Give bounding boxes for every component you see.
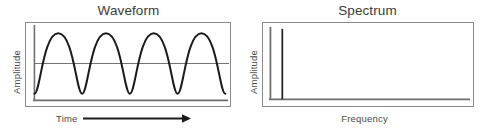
- waveform-title: Waveform: [0, 2, 243, 19]
- time-arrow-icon: [83, 113, 191, 124]
- waveform-plot-svg: [26, 23, 230, 106]
- panel-spectrum: Spectrum Amplitude Frequency: [243, 0, 486, 138]
- waveform-x-axis-label: Time: [56, 113, 78, 124]
- spectrum-plot-area: [262, 22, 474, 107]
- spectrum-x-axis-label: Frequency: [341, 113, 388, 124]
- panel-waveform: Waveform Amplitude Time: [0, 0, 243, 138]
- spectrum-plot-svg: [263, 23, 473, 106]
- waveform-plot-area: [25, 22, 231, 107]
- spectrum-title: Spectrum: [243, 2, 486, 19]
- spectrum-y-axis-label: Amplitude: [249, 50, 259, 94]
- figure-root: Waveform Amplitude Time Spectrum: [0, 0, 486, 138]
- spectrum-x-axis-label-row: Frequency: [243, 113, 486, 124]
- waveform-y-axis-label: Amplitude: [12, 50, 22, 94]
